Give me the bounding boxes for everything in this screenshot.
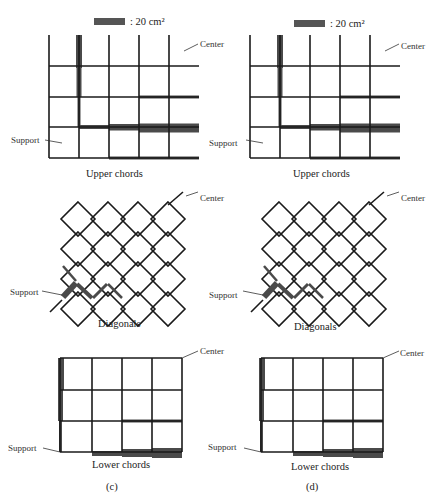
support-label: Support [11,135,40,145]
legend-swatch [94,18,125,25]
support-label: Support [209,138,238,148]
panel-c [42,35,199,458]
support-diagonal-extension [50,300,62,312]
support-leader [243,291,263,295]
thick-member [323,449,353,457]
support-leader [42,291,62,295]
center-leader [186,192,198,196]
panel-d [243,35,400,458]
upper-chords-caption: Upper chords [293,168,350,179]
thick-member [122,449,152,457]
support-leader [246,140,263,143]
thick-diagonal [309,284,323,298]
panel-caption: (c) [106,481,118,493]
center-label: Center [400,348,424,358]
support-leader [43,448,60,452]
diagonals-caption: Diagonals [294,321,337,332]
support-leader [45,140,62,143]
center-label: Center [200,39,224,49]
legend-swatch [294,20,325,27]
upper-chords-caption: Upper chords [86,168,143,179]
diagonals-caption: Diagonals [98,318,141,329]
legend-text: : 20 cm² [330,18,365,29]
legend-right: : 20 cm² [294,18,365,29]
support-label: Support [8,443,37,453]
thick-diagonal [108,284,122,298]
center-label: Center [200,193,224,203]
center-label: Center [200,346,224,356]
support-label: Support [209,290,238,300]
thick-member [353,448,383,458]
panel-caption: (d) [306,481,319,493]
center-label: Center [401,193,425,203]
center-label: Center [401,41,425,51]
center-leader [387,192,399,196]
center-leader [184,44,198,51]
support-label: Support [10,287,39,297]
thick-diagonal [264,266,277,281]
thick-diagonal [77,284,92,298]
legend-left: : 20 cm² [94,16,165,27]
thick-member [152,448,182,458]
support-label: Support [208,442,237,452]
thick-diagonal [278,284,293,298]
thick-diagonal [63,266,76,281]
grid-diagrams: : 20 cm² : 20 cm² Upper chords Diagonals… [0,0,432,500]
diagonal-lattice [262,202,386,326]
thick-member [259,358,265,390]
lower-chords-caption: Lower chords [92,459,150,470]
lower-chords-caption: Lower chords [291,461,349,472]
center-leader [182,351,198,358]
center-diagonal-extension [168,192,183,205]
center-leader [383,351,399,358]
thick-member [58,358,64,390]
center-diagonal-extension [369,192,384,205]
support-leader [244,448,261,452]
legend-text: : 20 cm² [130,16,165,27]
support-diagonal-extension [251,300,263,312]
center-leader [385,44,399,51]
diagonal-lattice [61,202,185,326]
